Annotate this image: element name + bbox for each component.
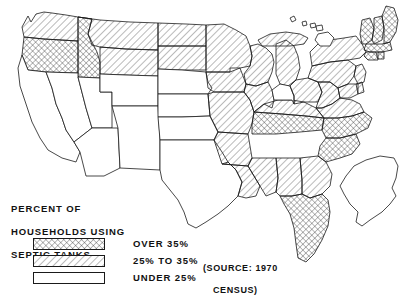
- state-NE: [158, 69, 212, 94]
- state-HI-5: [315, 32, 334, 46]
- state-MA: [364, 42, 392, 52]
- source-note-line-1: (SOURCE: 1970: [203, 263, 278, 274]
- state-NH: [372, 16, 384, 44]
- legend-label-25-to-35: 25% TO 35%: [133, 255, 198, 266]
- state-KS: [158, 94, 210, 117]
- state-ME: [382, 6, 398, 44]
- state-NJ: [354, 64, 366, 84]
- state-MI-up: [258, 32, 308, 46]
- state-MN: [206, 24, 252, 72]
- state-CT: [364, 52, 378, 60]
- legend-label-under-25: UNDER 25%: [133, 272, 197, 283]
- legend-label-over-35: OVER 35%: [133, 238, 189, 249]
- state-HI-2: [302, 21, 307, 26]
- legend-item-under-25: UNDER 25%: [33, 270, 198, 285]
- state-AK: [340, 156, 398, 226]
- source-note-line-2: CENSUS): [203, 285, 278, 296]
- state-IA: [206, 68, 246, 92]
- legend: OVER 35% 25% TO 35% UNDER 25%: [33, 236, 198, 287]
- state-ND: [158, 23, 206, 46]
- state-OK: [158, 116, 218, 140]
- state-SC: [318, 134, 360, 162]
- state-HI-4: [316, 25, 323, 31]
- state-SD: [158, 46, 206, 70]
- state-FL: [280, 194, 330, 262]
- state-GA: [300, 156, 332, 198]
- legend-swatch-diagonal-hatch: [33, 255, 105, 267]
- state-AL: [276, 158, 302, 196]
- legend-swatch-blank: [33, 272, 105, 284]
- state-WA: [22, 12, 78, 41]
- state-HI-1: [290, 16, 296, 22]
- state-WY: [100, 47, 158, 76]
- state-OR: [22, 37, 78, 73]
- legend-title-line-1: PERCENT OF: [11, 203, 201, 214]
- state-HI-3: [310, 23, 316, 28]
- source-note: (SOURCE: 1970 CENSUS): [203, 252, 278, 299]
- legend-item-over-35: OVER 35%: [33, 236, 198, 251]
- legend-item-25-to-35: 25% TO 35%: [33, 253, 198, 268]
- state-MI: [276, 40, 300, 86]
- state-RI: [378, 52, 384, 59]
- legend-swatch-cross-hatch: [33, 238, 105, 250]
